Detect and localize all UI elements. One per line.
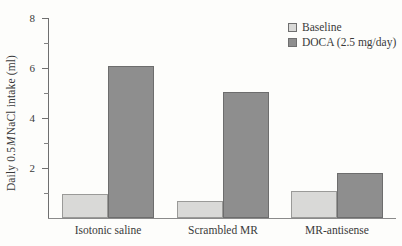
bar-doca xyxy=(108,66,154,219)
bar-baseline xyxy=(177,201,223,219)
y-axis-title-italic: M xyxy=(5,135,17,147)
legend-item: DOCA (2.5 mg/day) xyxy=(288,35,396,50)
y-tick-minor xyxy=(44,143,49,144)
y-tick-minor xyxy=(44,43,49,44)
x-axis-category-label: Isotonic saline xyxy=(75,224,142,236)
bar-baseline xyxy=(291,191,337,219)
x-axis-category-label: Scrambled MR xyxy=(188,224,258,236)
y-tick-label: 4 xyxy=(30,113,36,124)
legend-label: Baseline xyxy=(302,20,342,35)
x-axis-line xyxy=(48,218,396,219)
bar-baseline xyxy=(62,194,108,218)
bar-doca xyxy=(223,92,269,218)
y-axis-title-post: NaCl intake (ml) xyxy=(5,55,17,135)
legend-swatch-doca xyxy=(288,38,297,47)
y-tick-label: 6 xyxy=(30,63,36,74)
y-tick-minor xyxy=(44,93,49,94)
x-axis-category-label: MR-antisense xyxy=(305,224,369,236)
y-tick-minor xyxy=(44,193,49,194)
y-tick-major: 2 xyxy=(42,168,49,169)
legend-item: Baseline xyxy=(288,20,396,35)
chart-legend: BaselineDOCA (2.5 mg/day) xyxy=(288,20,396,50)
y-tick-major: 4 xyxy=(42,118,49,119)
y-tick-major: 6 xyxy=(42,68,49,69)
chart-figure: Daily 0.5 M NaCl intake (ml) 8642 Isoton… xyxy=(0,0,402,246)
legend-swatch-baseline xyxy=(288,23,297,32)
legend-label: DOCA (2.5 mg/day) xyxy=(302,35,396,50)
y-tick-major: 8 xyxy=(42,18,49,19)
y-tick-label: 2 xyxy=(30,163,36,174)
y-axis-title: Daily 0.5 M NaCl intake (ml) xyxy=(0,0,22,246)
y-axis-title-pre: Daily 0.5 xyxy=(5,147,17,191)
bar-doca xyxy=(337,173,383,218)
y-tick-label: 8 xyxy=(30,13,36,24)
